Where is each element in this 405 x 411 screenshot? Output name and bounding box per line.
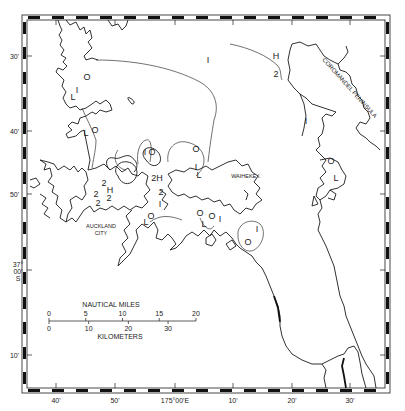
contour-label: I [207,55,210,65]
contour-label: L [70,92,75,102]
svg-text:S: S [16,275,21,282]
longitude-label: 175°00'E [161,397,190,404]
scale-tick-nautical-mile: 15 [155,310,163,317]
contour-label: 2 [158,187,163,197]
contour-label: O [208,211,215,221]
contour-label: L [83,128,88,138]
latitude-labels: 30'40'50'10' [10,53,19,359]
contour-label: O [192,144,199,154]
scale-tick-nautical-mile: 20 [192,310,200,317]
scale-title-nautical-miles: NAUTICAL MILES [82,301,140,308]
svg-text:00': 00' [13,268,22,275]
place-label-auckland2: CITY [95,230,108,236]
contour-label: O [83,72,90,82]
contour-label: I [144,147,147,157]
contour-label: H [273,51,280,61]
hauraki-gulf-map: OILLOIOOIH2IOL2H2222H2IILLOOOLIOI COROMA… [0,0,405,411]
contour-label: I [219,214,222,224]
contour-label: O [244,237,251,247]
scale-tick-kilometer: 0 [47,325,51,332]
latitude-label: 10' [10,352,19,359]
latitude-label: 40' [10,128,19,135]
svg-text:37°: 37° [13,261,24,268]
place-label-waiheke: WAIHEKE I. [231,173,261,179]
longitude-label: 30' [345,397,354,404]
latitude-label: 30' [10,53,19,60]
contour-label: 2 [101,178,106,188]
scale-title-kilometers: KILOMETERS [97,333,142,340]
scale-tick-kilometer: 20 [124,325,132,332]
longitude-labels: 40'50'175°00'E10'20'30' [51,397,354,404]
contour-label: I [305,116,308,126]
scale-tick-kilometer: 10 [85,325,93,332]
contour-label: 2 [95,198,100,208]
longitude-label: 20' [287,397,296,404]
scale-tick-nautical-mile: 5 [84,310,88,317]
contour-label: L [333,173,338,183]
contour-label: I [76,85,79,95]
contour-labels: OILLOIOOIH2IOL2H2222H2IILLOOOLIOI [70,51,338,247]
scale-bar: NAUTICAL MILES 05101520 0102030 KILOMETE… [47,301,200,340]
contour-label: O [148,147,155,157]
contour-label: O [327,156,334,166]
contour-label: O [147,211,154,221]
contour-label: 2 [273,69,278,79]
place-labels: COROMANDEL PENINSULAWAIHEKE I.AUCKLANDCI… [86,57,378,236]
longitude-label: 50' [110,397,119,404]
place-label-auckland1: AUCKLAND [86,223,116,229]
contour-label: O [91,125,98,135]
contour-label: I [256,224,259,234]
scale-tick-nautical-mile: 0 [47,310,51,317]
scale-tick-nautical-mile: 10 [119,310,127,317]
contour-lines [82,44,282,251]
contour-label: L [196,170,201,180]
contour-label: 2 [106,193,111,203]
contour-label: 2H [151,173,163,183]
longitude-label: 10' [228,397,237,404]
contour-label: L [201,219,206,229]
contour-label: O [196,208,203,218]
longitude-label: 40' [51,397,60,404]
latitude-label: 50' [10,191,19,198]
contour-label: I [159,199,162,209]
scale-tick-kilometer: 30 [164,325,172,332]
